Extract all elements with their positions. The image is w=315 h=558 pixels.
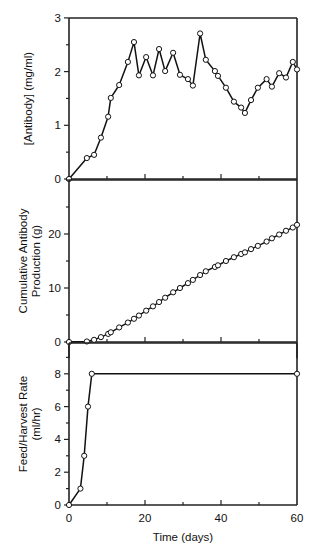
y-axis-title: Production (g) [30, 225, 42, 297]
data-point-marker [117, 82, 122, 87]
data-point-marker [223, 258, 228, 263]
data-point-marker [203, 57, 208, 62]
data-point-marker [163, 295, 168, 300]
data-point-marker [108, 330, 113, 335]
y-tick-label: 2 [55, 66, 61, 78]
data-point-marker [277, 71, 282, 76]
data-point-marker [82, 453, 87, 458]
data-point-marker [84, 155, 89, 160]
x-tick-label: 60 [291, 512, 304, 524]
y-tick-label: 4 [55, 433, 62, 445]
data-point-marker [248, 97, 253, 102]
data-point-marker [264, 239, 269, 244]
data-point-marker [136, 313, 141, 318]
data-point-marker [136, 73, 141, 78]
data-point-marker [294, 222, 299, 227]
data-point-marker [215, 73, 220, 78]
data-point-marker [198, 272, 203, 277]
data-point-marker [163, 68, 168, 73]
y-axis-title: Cumulative Antibody [17, 208, 29, 313]
data-point-marker [78, 486, 83, 491]
y-tick-label: 3 [55, 12, 61, 24]
y-tick-label: 0 [55, 499, 61, 511]
y-tick-label: 0 [55, 173, 61, 185]
y-axis-title: Feed/Harvest Rate [17, 376, 29, 473]
x-tick-label: 40 [215, 512, 228, 524]
data-point-marker [198, 31, 203, 36]
x-tick-label: 0 [66, 512, 72, 524]
data-point-marker [98, 335, 103, 340]
data-point-marker [131, 39, 136, 44]
data-point-marker [89, 371, 94, 376]
data-point-marker [125, 320, 130, 325]
data-point-marker [231, 99, 236, 104]
data-point-marker [269, 84, 274, 89]
data-point-marker [156, 46, 161, 51]
data-point-marker [66, 502, 71, 507]
data-point-marker [144, 308, 149, 313]
data-point-marker [231, 255, 236, 260]
data-point-marker [144, 55, 149, 60]
y-tick-label: 2 [55, 466, 61, 478]
data-point-marker [290, 59, 295, 64]
data-point-marker [283, 228, 288, 233]
data-point-marker [177, 285, 182, 290]
y-tick-label: 10 [48, 282, 61, 294]
data-point-marker [171, 50, 176, 55]
data-point-marker [117, 325, 122, 330]
data-point-marker [185, 281, 190, 286]
data-point-marker [269, 236, 274, 241]
data-point-marker [131, 316, 136, 321]
data-point-marker [190, 277, 195, 282]
data-point-marker [294, 371, 299, 376]
data-point-marker [242, 110, 247, 115]
data-point-marker [283, 75, 288, 80]
data-point-marker [242, 250, 247, 255]
x-axis-title: Time (days) [153, 531, 213, 543]
data-point-marker [255, 85, 260, 90]
data-point-marker [248, 247, 253, 252]
y-axis-title: (ml/hr) [30, 407, 42, 440]
data-point-marker [85, 404, 90, 409]
y-tick-label: 20 [48, 228, 61, 240]
data-point-marker [156, 299, 161, 304]
data-point-marker [177, 72, 182, 77]
chart-figure: 0123[Antibody] (mg/ml) 01020Cumulative A… [0, 0, 315, 558]
data-point-marker [212, 68, 217, 73]
data-point-marker [91, 337, 96, 342]
data-line [69, 374, 297, 505]
data-point-marker [108, 95, 113, 100]
y-tick-label: 1 [55, 119, 61, 131]
data-point-marker [239, 105, 244, 110]
data-point-marker [125, 59, 130, 64]
y-tick-label: 6 [55, 401, 61, 413]
data-point-marker [215, 263, 220, 268]
data-point-marker [150, 73, 155, 78]
data-point-marker [203, 269, 208, 274]
data-point-marker [91, 152, 96, 157]
panel-antibody-concentration: 0123[Antibody] (mg/ml) [22, 12, 300, 185]
data-point-marker [255, 243, 260, 248]
data-point-marker [171, 290, 176, 295]
data-point-marker [190, 83, 195, 88]
y-tick-label: 8 [55, 368, 61, 380]
data-line [69, 225, 297, 342]
panel-cumulative-production: 01020Cumulative AntibodyProduction (g) [17, 180, 300, 358]
y-axis-title: [Antibody] (mg/ml) [22, 52, 34, 145]
data-point-marker [264, 77, 269, 82]
data-point-marker [185, 77, 190, 82]
x-tick-label: 20 [139, 512, 152, 524]
y-tick-label: 0 [55, 336, 61, 348]
data-point-marker [223, 85, 228, 90]
data-point-marker [98, 135, 103, 140]
data-point-marker [106, 114, 111, 119]
data-point-marker [277, 232, 282, 237]
data-point-marker [294, 67, 299, 72]
panel-feed-harvest-rate: 02468Feed/Harvest Rate(ml/hr)0204060Time… [17, 343, 303, 543]
data-line [69, 34, 297, 180]
data-point-marker [150, 304, 155, 309]
